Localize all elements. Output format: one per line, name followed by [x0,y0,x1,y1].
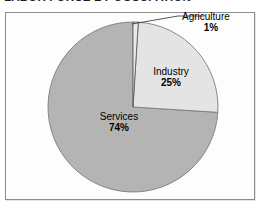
agriculture-name: Agriculture [182,11,256,22]
slice-label-agriculture: Agriculture 1% [182,11,256,33]
slice-label-services: Services 74% [88,111,150,133]
agriculture-percent: 1% [182,22,240,33]
industry-name: Industry [140,66,202,77]
slice-label-industry: Industry 25% [140,66,202,88]
industry-percent: 25% [140,77,202,88]
services-percent: 74% [88,122,150,133]
services-name: Services [88,111,150,122]
pie-chart-figure: LABOR FORCE BY OCCUPATION Agriculture 1%… [0,0,262,209]
